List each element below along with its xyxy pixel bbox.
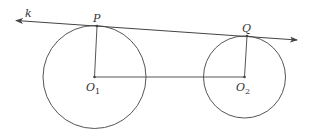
point-o1 bbox=[93, 76, 96, 79]
label-q: Q bbox=[242, 22, 251, 35]
tangent-line-k bbox=[16, 21, 297, 41]
radius-o1-p bbox=[95, 26, 98, 77]
point-q bbox=[246, 35, 249, 38]
point-o2 bbox=[243, 76, 246, 79]
label-p: P bbox=[92, 12, 101, 25]
label-k: k bbox=[25, 7, 32, 20]
point-p bbox=[96, 25, 99, 28]
radius-o2-q bbox=[245, 36, 248, 77]
label-o1: O1 bbox=[86, 81, 100, 96]
diagram-canvas: k P Q O1 O2 bbox=[0, 0, 310, 133]
label-o2: O2 bbox=[236, 81, 250, 96]
